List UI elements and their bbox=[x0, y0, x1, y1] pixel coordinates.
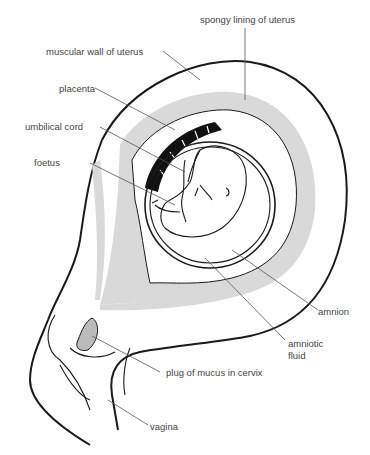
lining-left-band bbox=[92, 160, 105, 300]
label-placenta: placenta bbox=[59, 83, 95, 94]
label-muscular-wall: muscular wall of uterus bbox=[46, 46, 143, 57]
cervix-plug bbox=[77, 318, 98, 351]
muscular-wall-left bbox=[30, 140, 102, 445]
leader-muscular-wall bbox=[163, 51, 200, 80]
cervix-wall bbox=[48, 315, 115, 410]
label-foetus: foetus bbox=[34, 157, 60, 168]
label-spongy-lining: spongy lining of uterus bbox=[200, 14, 295, 25]
label-vagina: vagina bbox=[150, 421, 178, 432]
label-umbilical-cord: umbilical cord bbox=[25, 121, 83, 132]
label-amniotic-fluid-1: amniotic bbox=[288, 338, 323, 349]
uterus-diagram bbox=[0, 0, 370, 455]
leader-plug bbox=[92, 336, 160, 372]
label-amniotic-fluid-2: fluid bbox=[288, 350, 305, 361]
label-plug-of-mucus: plug of mucus in cervix bbox=[166, 367, 263, 378]
uterine-cavity bbox=[132, 110, 296, 283]
label-amnion: amnion bbox=[318, 306, 349, 317]
vagina-wall bbox=[60, 348, 130, 400]
